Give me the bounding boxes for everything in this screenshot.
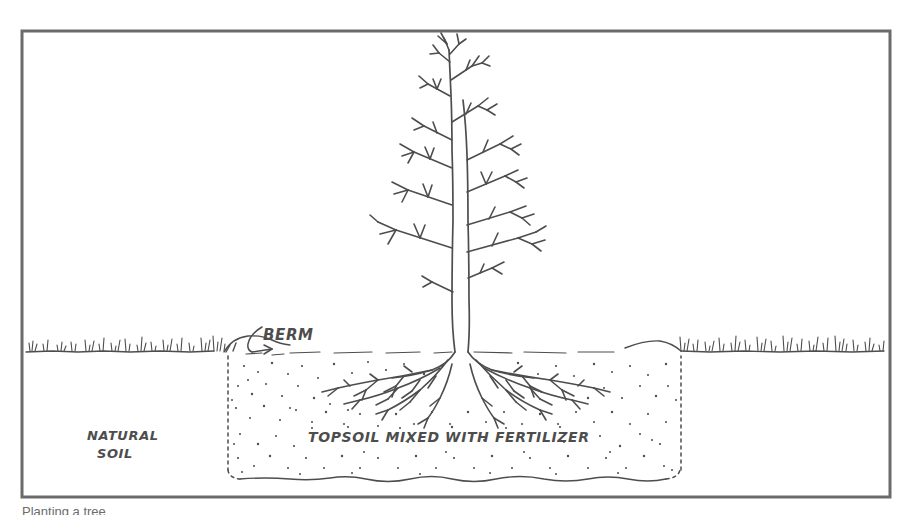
topsoil-label: TOPSOIL MIXED WITH FERTILIZER	[308, 429, 590, 445]
berm-label: BERM	[263, 326, 314, 344]
natural-soil-label-line1: NATURAL	[87, 428, 159, 443]
natural-soil-label-line2: SOIL	[97, 446, 133, 461]
figure-caption-text: Planting a tree	[0, 505, 917, 515]
figure-root: BERM NATURAL SOIL TOPSOIL MIXED WITH FER…	[0, 0, 917, 515]
tree-planting-cross-section-diagram: BERM NATURAL SOIL TOPSOIL MIXED WITH FER…	[0, 0, 917, 515]
figure-caption: Planting a tree	[0, 505, 917, 515]
